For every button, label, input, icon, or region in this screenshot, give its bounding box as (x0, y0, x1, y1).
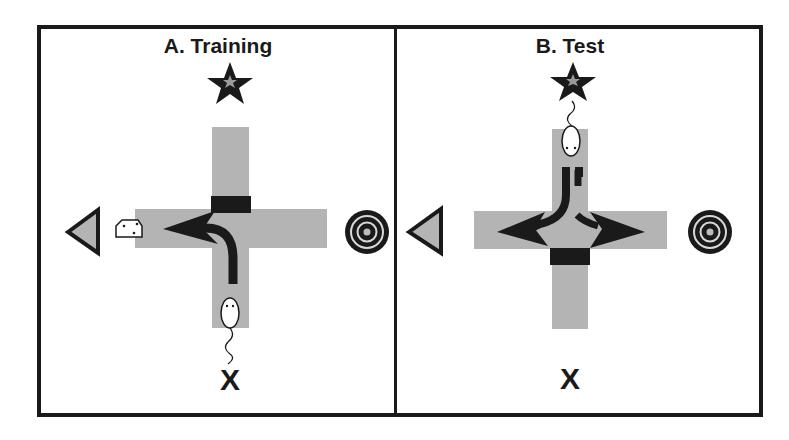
x-marker: X (220, 363, 240, 396)
bullseye-icon (688, 210, 732, 254)
block-barrier-icon (211, 196, 251, 213)
plus-maze-b (474, 129, 667, 329)
block-barrier-icon (550, 248, 590, 265)
star-icon (207, 62, 253, 104)
star-icon (550, 62, 596, 101)
cheese-icon (116, 220, 142, 237)
bullseye-icon (345, 210, 389, 254)
mouse-icon (562, 101, 580, 156)
triangle-icon (68, 210, 98, 253)
mouse-icon (221, 298, 239, 364)
triangle-icon (409, 209, 441, 253)
x-marker: X (560, 362, 580, 395)
panel-b: X (409, 62, 732, 395)
panel-a: X (68, 62, 389, 396)
